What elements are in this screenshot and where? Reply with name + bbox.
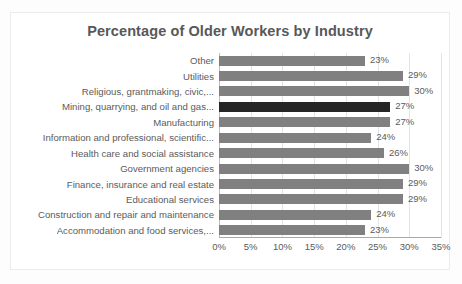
category-axis-line	[219, 237, 441, 238]
bar-value-label: 23%	[370, 224, 389, 235]
bar-row: 26%	[219, 146, 441, 161]
bar[interactable]	[219, 71, 403, 81]
bar-row: 23%	[219, 53, 441, 68]
bar-row: 24%	[219, 207, 441, 222]
category-axis-labels: OtherUtilitiesReligious, grantmaking, ci…	[11, 53, 214, 238]
category-label-row: Construction and repair and maintenance	[11, 207, 214, 222]
category-label: Utilities	[183, 71, 214, 82]
bar-value-label: 29%	[408, 69, 427, 80]
bar[interactable]	[219, 179, 403, 189]
bar-row: 27%	[219, 99, 441, 114]
tick-label: 25%	[368, 241, 387, 252]
category-label: Mining, quarrying, and oil and gas...	[62, 101, 214, 112]
value-axis-ticks: 0%5%10%15%20%25%30%35%	[219, 241, 441, 255]
bar-value-label: 26%	[389, 147, 408, 158]
tick-label: 20%	[336, 241, 355, 252]
bar[interactable]	[219, 117, 390, 127]
bar-row: 30%	[219, 161, 441, 176]
bar-row: 30%	[219, 84, 441, 99]
bar-row: 29%	[219, 68, 441, 83]
tick-label: 0%	[212, 241, 226, 252]
category-label-row: Utilities	[11, 68, 214, 83]
tick-label: 30%	[400, 241, 419, 252]
chart-container: Percentage of Older Workers by Industry …	[10, 12, 450, 270]
category-label-row: Finance, insurance and real estate	[11, 176, 214, 191]
bar-value-label: 29%	[408, 177, 427, 188]
category-label-row: Information and professional, scientific…	[11, 130, 214, 145]
bar-value-label: 24%	[376, 208, 395, 219]
bar-value-label: 30%	[414, 162, 433, 173]
bar-value-label: 27%	[395, 100, 414, 111]
bar-row: 29%	[219, 176, 441, 191]
category-label: Other	[190, 55, 214, 66]
bar[interactable]	[219, 210, 371, 220]
category-label: Health care and social assistance	[71, 148, 214, 159]
category-label: Accommodation and food services,...	[57, 225, 214, 236]
category-label-row: Educational services	[11, 192, 214, 207]
category-label-row: Accommodation and food services,...	[11, 223, 214, 238]
plot-area: 23%29%30%27%27%24%26%30%29%29%24%23%	[219, 53, 441, 238]
gridline-35	[441, 53, 442, 238]
category-label: Educational services	[126, 194, 214, 205]
bar[interactable]	[219, 225, 365, 235]
tick-label: 10%	[273, 241, 292, 252]
chart-title: Percentage of Older Workers by Industry	[11, 23, 449, 39]
bar-highlighted[interactable]	[219, 102, 390, 112]
bar-value-label: 30%	[414, 85, 433, 96]
bar[interactable]	[219, 148, 384, 158]
bar-row: 23%	[219, 223, 441, 238]
category-label: Finance, insurance and real estate	[67, 179, 214, 190]
tick-label: 15%	[305, 241, 324, 252]
tick-label: 5%	[244, 241, 258, 252]
category-label: Government agencies	[120, 163, 214, 174]
tick-label: 35%	[431, 241, 450, 252]
category-label-row: Health care and social assistance	[11, 146, 214, 161]
bar-value-label: 23%	[370, 54, 389, 65]
category-label: Religious, grantmaking, civic,...	[82, 86, 214, 97]
bar[interactable]	[219, 133, 371, 143]
bar[interactable]	[219, 56, 365, 66]
category-label: Manufacturing	[153, 117, 214, 128]
bar-value-label: 27%	[395, 116, 414, 127]
bar-row: 29%	[219, 192, 441, 207]
bar-row: 27%	[219, 115, 441, 130]
bar-value-label: 29%	[408, 193, 427, 204]
bar-value-label: 24%	[376, 131, 395, 142]
bar-row: 24%	[219, 130, 441, 145]
category-label-row: Manufacturing	[11, 115, 214, 130]
category-label-row: Other	[11, 53, 214, 68]
bar[interactable]	[219, 86, 409, 96]
bar[interactable]	[219, 194, 403, 204]
category-label-row: Government agencies	[11, 161, 214, 176]
bar-series: 23%29%30%27%27%24%26%30%29%29%24%23%	[219, 53, 441, 238]
bar[interactable]	[219, 164, 409, 174]
category-label-row: Mining, quarrying, and oil and gas...	[11, 99, 214, 114]
category-label-row: Religious, grantmaking, civic,...	[11, 84, 214, 99]
category-label: Information and professional, scientific…	[43, 132, 214, 143]
category-label: Construction and repair and maintenance	[38, 209, 214, 220]
